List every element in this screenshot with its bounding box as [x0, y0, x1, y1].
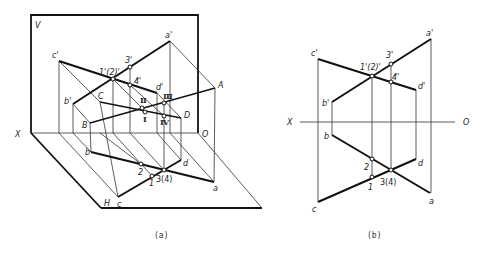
label-a-prime-b: a': [426, 29, 433, 38]
label-3-prime-a: 3': [125, 56, 132, 65]
label-12-prime-a: 1'(2)': [99, 68, 120, 77]
main-lines-a: [59, 41, 215, 197]
label-2-a: 2: [138, 168, 143, 177]
label-H: H: [104, 199, 110, 208]
projection-diagram: V H X O c' a' b' d' 1'(2)' 3' 4' C A B D…: [0, 0, 480, 255]
label-3-prime-b: 3': [386, 51, 393, 60]
label-d-a: d: [183, 159, 189, 168]
caption-b: (b): [367, 231, 381, 240]
label-B: B: [82, 121, 88, 130]
label-b-prime-b: b': [322, 99, 329, 108]
label-a-b: a: [429, 197, 434, 206]
label-1-b: 1: [368, 183, 373, 192]
label-C: C: [98, 92, 104, 101]
label-2-b: 2: [364, 163, 369, 172]
label-c-a: c: [117, 200, 122, 209]
label-a-prime-a: a': [165, 31, 172, 40]
label-c-b: c: [312, 205, 317, 214]
label-d-b: d: [418, 159, 424, 168]
label-a-a: a: [213, 184, 218, 193]
label-roman-I: Ⅰ: [143, 114, 147, 124]
label-34-b: 3(4): [380, 178, 396, 187]
line-AB-space: [90, 88, 215, 123]
caption-a: (a): [154, 231, 168, 240]
line-ab-v-proj: [73, 41, 170, 104]
label-d-prime-b: d': [418, 82, 425, 91]
label-4-prime-b: 4': [392, 73, 399, 82]
label-V: V: [35, 21, 41, 30]
label-34-a: 3(4): [156, 175, 172, 184]
line-cd-v-proj: [59, 61, 157, 93]
label-b-a: b: [85, 148, 90, 157]
label-X-b: X: [286, 118, 293, 127]
label-O-a: O: [202, 130, 208, 139]
label-1-a: 1: [149, 179, 154, 188]
h-plane-right-edge: [198, 133, 262, 208]
label-D: D: [184, 111, 190, 120]
label-roman-II: Ⅱ: [140, 95, 147, 105]
label-A: A: [217, 81, 223, 90]
label-4-prime-a: 4': [134, 77, 141, 86]
label-c-prime-b: c': [311, 49, 318, 58]
figure-a: V H X O c' a' b' d' 1'(2)' 3' 4' C A B D…: [14, 15, 262, 240]
label-12-prime-b: 1'(2)': [360, 63, 381, 72]
label-b-b: b: [324, 132, 329, 141]
label-roman-IV: Ⅳ: [160, 117, 170, 127]
label-c-prime-a: c': [52, 51, 59, 60]
label-b-prime-a: b': [64, 97, 71, 106]
projector-lines-a: [59, 41, 215, 197]
label-roman-III: Ⅲ: [163, 91, 173, 101]
label-O-b: O: [463, 118, 469, 127]
label-X-a: X: [14, 130, 21, 139]
figure-b: X O c' a' b' d' 1'(2)' 3' 4' b c a d 2 1…: [286, 29, 469, 240]
